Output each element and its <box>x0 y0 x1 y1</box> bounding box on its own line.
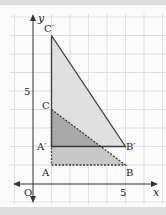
y-tick-label-5: 5 <box>24 86 30 97</box>
x-tick-label-5: 5 <box>120 187 126 198</box>
point-label-a-prime: A′ <box>36 141 47 152</box>
point-label-b-prime: B′ <box>126 141 136 152</box>
coordinate-plane: y x O 5 5 C′ C A′ A B′ B <box>0 0 166 215</box>
bottom-border-strip <box>0 207 166 215</box>
diagram-frame: y x O 5 5 C′ C A′ A B′ B <box>0 0 166 215</box>
point-label-c-prime: C′ <box>44 23 55 34</box>
origin-label: O <box>24 187 32 198</box>
y-axis-arrow-icon <box>30 14 36 21</box>
point-label-b: B <box>126 167 133 178</box>
point-label-a: A <box>41 167 50 178</box>
x-axis-left-arrow-icon <box>13 181 20 187</box>
point-label-c: C <box>42 100 50 111</box>
x-axis-label: x <box>153 186 160 199</box>
